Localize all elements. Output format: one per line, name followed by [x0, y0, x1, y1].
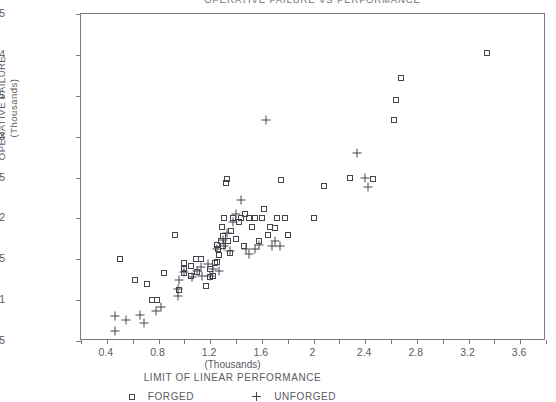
y-axis-tick-label: 4	[0, 48, 5, 60]
x-axis-units-label: (Thousands)	[0, 359, 465, 370]
data-point-unforged	[157, 303, 166, 312]
plot-frame	[80, 13, 545, 340]
x-axis-tick-label: 0.8	[133, 346, 183, 358]
plot-area	[81, 14, 544, 339]
x-axis-tick-label: 3.2	[443, 346, 493, 358]
data-point-unforged	[261, 116, 270, 125]
x-axis-tick	[469, 339, 470, 344]
x-axis-tick	[210, 339, 211, 344]
data-point-forged	[259, 215, 265, 221]
data-point-unforged	[175, 275, 184, 284]
y-axis-tick	[76, 96, 81, 97]
legend-label: UNFORGED	[274, 391, 336, 402]
data-point-unforged	[353, 148, 362, 157]
x-axis-tick	[365, 339, 366, 344]
data-point-forged	[274, 215, 280, 221]
x-axis-minor-tick	[339, 340, 340, 344]
x-axis-minor-tick	[184, 340, 185, 344]
data-point-unforged	[363, 183, 372, 192]
data-point-unforged	[232, 210, 241, 219]
x-axis-minor-tick	[443, 340, 444, 344]
data-point-forged	[224, 176, 230, 182]
data-point-forged	[370, 176, 376, 182]
x-axis-minor-tick	[81, 340, 82, 344]
square-marker-icon	[129, 394, 135, 400]
data-point-forged	[172, 232, 178, 238]
y-axis-tick-label: 3.5	[0, 89, 5, 101]
y-axis-tick-label: 0.5	[0, 334, 5, 346]
data-point-forged	[249, 224, 255, 230]
x-axis-minor-tick	[546, 340, 547, 344]
data-point-unforged	[275, 242, 284, 251]
y-axis-tick	[76, 14, 81, 15]
x-axis-minor-tick	[288, 340, 289, 344]
x-axis-tick	[159, 339, 160, 344]
data-point-forged	[246, 215, 252, 221]
data-point-unforged	[215, 266, 224, 275]
x-axis-tick	[314, 339, 315, 344]
data-point-forged	[144, 281, 150, 287]
data-point-forged	[347, 175, 353, 181]
y-axis-tick	[76, 259, 81, 260]
y-axis-tick-label: 4.5	[0, 7, 5, 19]
data-point-unforged	[361, 173, 370, 182]
x-axis-tick-label: 2.8	[391, 346, 441, 358]
data-point-forged	[252, 215, 258, 221]
data-point-forged	[282, 215, 288, 221]
data-point-forged	[233, 236, 239, 242]
x-axis-tick-label: 1.6	[236, 346, 286, 358]
chart-legend: FORGEDUNFORGED	[0, 391, 465, 402]
data-point-unforged	[173, 284, 182, 293]
y-axis-tick-label: 2.5	[0, 171, 5, 183]
x-axis-minor-tick	[236, 340, 237, 344]
x-axis-tick	[417, 339, 418, 344]
x-axis-tick-label: 1.2	[184, 346, 234, 358]
legend-entry-unforged: UNFORGED	[252, 391, 336, 402]
y-axis-tick-label: 2	[0, 211, 5, 223]
data-point-forged	[221, 215, 227, 221]
legend-entry-forged: FORGED	[129, 391, 194, 402]
x-axis-minor-tick	[133, 340, 134, 344]
x-axis-tick-label: 2.4	[339, 346, 389, 358]
data-point-forged	[321, 183, 327, 189]
data-point-unforged	[110, 327, 119, 336]
x-axis-minor-tick	[391, 340, 392, 344]
y-axis-tick-label: 3	[0, 130, 5, 142]
data-point-unforged	[225, 247, 234, 256]
x-axis-tick	[107, 339, 108, 344]
data-point-forged	[117, 256, 123, 262]
x-axis-tick-label: 3.6	[494, 346, 544, 358]
data-point-forged	[391, 117, 397, 123]
chart-title: OPERATIVE FAILURE VS PERFORMANCE	[80, 0, 545, 3]
x-axis-tick	[520, 339, 521, 344]
data-point-unforged	[140, 319, 149, 328]
data-point-forged	[261, 206, 267, 212]
data-point-unforged	[122, 315, 131, 324]
y-axis-tick	[76, 55, 81, 56]
data-point-forged	[203, 283, 209, 289]
y-axis-tick	[76, 137, 81, 138]
x-axis-title: LIMIT OF LINEAR PERFORMANCE	[0, 372, 465, 383]
data-point-forged	[285, 232, 291, 238]
data-point-forged	[272, 225, 278, 231]
data-point-unforged	[255, 240, 264, 249]
y-axis-tick	[76, 300, 81, 301]
data-point-forged	[132, 277, 138, 283]
y-axis-tick	[76, 218, 81, 219]
legend-label: FORGED	[148, 391, 194, 402]
y-axis-tick-label: 1.5	[0, 252, 5, 264]
data-point-forged	[311, 215, 317, 221]
data-point-forged	[484, 50, 490, 56]
data-point-forged	[398, 75, 404, 81]
y-axis-tick	[76, 178, 81, 179]
data-point-unforged	[222, 229, 231, 238]
data-point-forged	[278, 177, 284, 183]
x-axis-tick-label: 0.4	[81, 346, 131, 358]
plus-marker-icon	[252, 392, 261, 401]
data-point-forged	[161, 270, 167, 276]
data-point-unforged	[110, 312, 119, 321]
data-point-unforged	[237, 196, 246, 205]
x-axis-minor-tick	[494, 340, 495, 344]
y-axis-tick-label: 1	[0, 293, 5, 305]
